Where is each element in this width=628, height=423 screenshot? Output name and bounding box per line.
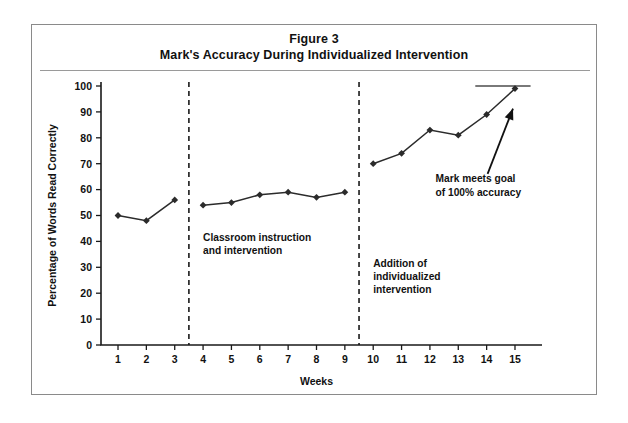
phase-label-individualized-line-3: intervention xyxy=(373,284,431,295)
data-point-marker xyxy=(256,191,263,198)
data-point-marker xyxy=(370,160,377,167)
x-axis-tick-label: 9 xyxy=(342,353,348,365)
x-axis-tick-label: 3 xyxy=(172,353,178,365)
y-axis-tick-label: 40 xyxy=(80,235,92,247)
x-axis-tick-label: 12 xyxy=(424,353,436,365)
phase-label-individualized-line-1: Addition of xyxy=(373,258,427,269)
phase-label-classroom-line-2: and intervention xyxy=(203,245,282,256)
series-segment-addition-of-individualized-intervention xyxy=(373,89,515,164)
x-axis-tick-label: 10 xyxy=(367,353,379,365)
data-point-marker xyxy=(115,212,122,219)
series-segment-classroom-instruction-and-intervention xyxy=(203,192,345,205)
y-axis-tick-label: 10 xyxy=(80,313,92,325)
y-axis-tick-label: 50 xyxy=(80,209,92,221)
data-point-marker xyxy=(228,199,235,206)
y-axis-tick-label: 30 xyxy=(80,261,92,273)
x-axis-tick-label: 5 xyxy=(229,353,235,365)
x-axis-tick-label: 13 xyxy=(452,353,464,365)
goal-annotation-arrow-head xyxy=(505,109,514,121)
y-axis-tick-label: 60 xyxy=(80,183,92,195)
x-axis-tick-label: 1 xyxy=(115,353,121,365)
x-axis-tick-label: 6 xyxy=(257,353,263,365)
x-axis-tick-label: 15 xyxy=(509,353,521,365)
x-axis-tick-label: 4 xyxy=(200,353,206,365)
data-point-marker xyxy=(200,202,207,209)
x-axis-tick-label: 7 xyxy=(285,353,291,365)
y-axis-tick-label: 90 xyxy=(80,106,92,118)
chart-plot-area: 0102030405060708090100123456789101112131… xyxy=(32,25,598,396)
y-axis-tick-label: 80 xyxy=(80,132,92,144)
x-axis-tick-label: 11 xyxy=(396,353,407,365)
y-axis-title: Percentage of Words Read Correctly xyxy=(46,124,58,307)
y-axis-tick-label: 70 xyxy=(80,158,92,170)
goal-annotation-line-2: of 100% accuracy xyxy=(436,187,522,198)
x-axis-tick-label: 14 xyxy=(481,353,493,365)
line-chart: 0102030405060708090100123456789101112131… xyxy=(32,25,598,396)
y-axis-tick-label: 0 xyxy=(86,339,92,351)
y-axis-tick-label: 100 xyxy=(74,80,92,92)
phase-label-classroom-line-1: Classroom instruction xyxy=(203,232,311,243)
data-point-marker xyxy=(285,189,292,196)
x-axis-title: Weeks xyxy=(300,375,333,387)
y-axis-tick-label: 20 xyxy=(80,287,92,299)
data-point-marker xyxy=(313,194,320,201)
data-point-marker xyxy=(341,189,348,196)
figure-frame: Figure 3 Mark's Accuracy During Individu… xyxy=(31,24,597,395)
x-axis-tick-label: 2 xyxy=(143,353,149,365)
goal-annotation-line-1: Mark meets goal xyxy=(436,173,516,184)
x-axis-tick-label: 8 xyxy=(314,353,320,365)
phase-label-individualized-line-2: individualized xyxy=(373,271,440,282)
